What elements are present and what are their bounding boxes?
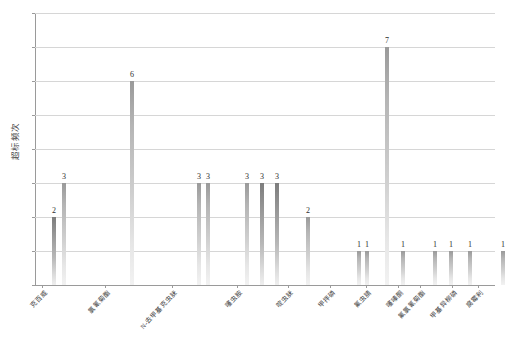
x-axis-tick-mark <box>105 285 106 288</box>
gridline <box>35 217 495 218</box>
gridline <box>35 115 495 116</box>
x-axis-tick-mark <box>420 285 421 288</box>
gridline <box>35 13 495 14</box>
x-axis-category-label: 甲基异柳磷 <box>427 287 459 320</box>
bar-value-label: 2 <box>301 206 315 215</box>
y-axis-tick-mark <box>32 217 35 218</box>
bar-value-label: 7 <box>380 36 394 45</box>
x-axis-category-label: 克百威 <box>27 287 49 310</box>
bar <box>468 251 472 285</box>
bar <box>433 251 437 285</box>
plot-area: 012345678 23633333211111711 <box>35 13 495 285</box>
y-axis-title: 超标频次 <box>8 101 20 181</box>
gridline <box>35 47 495 48</box>
x-axis-tick-mark <box>452 285 453 288</box>
y-axis-tick-mark <box>32 13 35 14</box>
y-axis-tick-mark <box>32 183 35 184</box>
bar <box>52 217 56 285</box>
bar <box>449 251 453 285</box>
bar <box>501 251 505 285</box>
bar-value-label: 3 <box>240 172 254 181</box>
x-axis-category-label: 氟虫腈 <box>351 287 373 310</box>
y-axis-tick-mark <box>32 251 35 252</box>
bar-value-label: 2 <box>47 206 61 215</box>
x-axis-category-label: 噻虫胺 <box>222 287 244 310</box>
bar-value-label: 1 <box>396 240 410 249</box>
bar-value-label: 1 <box>444 240 458 249</box>
bar <box>357 251 361 285</box>
bar <box>206 183 210 285</box>
x-axis-tick-mark <box>172 285 173 288</box>
bar-value-label: 3 <box>270 172 284 181</box>
x-axis-category-label: 氯氰菊酯 <box>85 287 112 315</box>
bar <box>197 183 201 285</box>
y-axis-tick-mark <box>32 149 35 150</box>
x-axis-category-label: N-去甲基克虫脒 <box>138 287 180 331</box>
gridline <box>35 149 495 150</box>
bar <box>245 183 249 285</box>
bar <box>275 183 279 285</box>
bar-value-label: 3 <box>201 172 215 181</box>
x-axis-tick-mark <box>42 285 43 288</box>
x-axis-category-label: 啶虫脒 <box>273 287 295 310</box>
x-axis-category-label: 甲拌磷 <box>315 287 337 310</box>
bar-value-label: 1 <box>463 240 477 249</box>
bar-value-label: 3 <box>57 172 71 181</box>
gridline <box>35 251 495 252</box>
x-axis-tick-mark <box>288 285 289 288</box>
x-axis-labels: 克百威氯氰菊酯N-去甲基克虫脒噻虫胺啶虫脒甲拌磷氟虫腈噻嗪酮氟氯氰菊酯甲基异柳磷… <box>35 285 495 346</box>
y-axis-tick-mark <box>32 47 35 48</box>
bar <box>385 47 389 285</box>
bar <box>306 217 310 285</box>
bar <box>62 183 66 285</box>
bar-value-label: 3 <box>255 172 269 181</box>
x-axis-tick-mark <box>237 285 238 288</box>
bar <box>401 251 405 285</box>
gridline <box>35 81 495 82</box>
bar <box>365 251 369 285</box>
x-axis-tick-mark <box>366 285 367 288</box>
x-axis-tick-mark <box>330 285 331 288</box>
bar <box>260 183 264 285</box>
x-axis-tick-mark <box>398 285 399 288</box>
y-axis-tick-mark <box>32 81 35 82</box>
bar-value-label: 6 <box>125 70 139 79</box>
y-axis-tick-mark <box>32 115 35 116</box>
x-axis-category-label: 腐霉利 <box>463 287 485 310</box>
bar-value-label: 1 <box>360 240 374 249</box>
bar <box>130 81 134 285</box>
gridline <box>35 183 495 184</box>
x-axis-tick-mark <box>478 285 479 288</box>
bar-value-label: 1 <box>428 240 442 249</box>
bar-value-label: 1 <box>496 240 509 249</box>
